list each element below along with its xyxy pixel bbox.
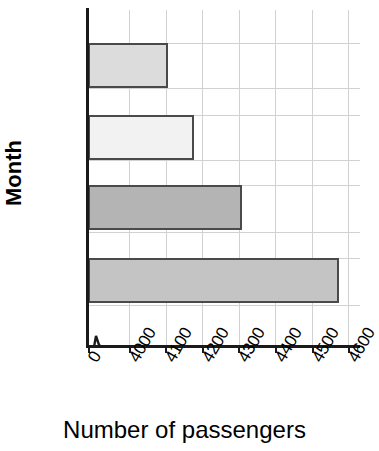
gridline-horizontal xyxy=(88,88,360,89)
y-axis-line xyxy=(86,8,89,347)
bar-mar xyxy=(88,258,339,303)
gridline-horizontal xyxy=(88,232,360,233)
gridline-vertical xyxy=(348,10,349,345)
chart-title xyxy=(0,0,369,2)
axis-break-zigzag-icon xyxy=(89,332,111,348)
plot-area xyxy=(88,10,360,345)
gridline-horizontal xyxy=(88,305,360,306)
bar-dec xyxy=(88,43,168,88)
x-axis-title: Number of passengers xyxy=(0,416,369,444)
x-tick-label-0: 0 xyxy=(84,348,106,366)
y-axis-title: Month xyxy=(1,123,27,223)
gridline-horizontal xyxy=(88,160,360,161)
bar-jan xyxy=(88,115,194,160)
bar-feb xyxy=(88,185,242,230)
